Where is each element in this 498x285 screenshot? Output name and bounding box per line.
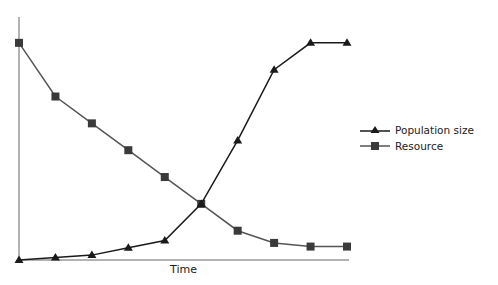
square-marker [161,173,169,181]
legend-item-resource: Resource [360,138,474,154]
square-marker [15,39,23,47]
triangle-marker-icon [360,125,390,135]
legend-label-resource: Resource [395,140,443,152]
legend: Population size Resource [360,122,474,154]
population-series [15,38,352,263]
square-marker-icon [360,141,390,151]
legend-label-population: Population size [395,124,474,136]
square-marker [270,239,278,247]
square-marker [51,93,59,101]
x-axis-label: Time [170,263,197,276]
square-marker [234,227,242,235]
triangle-marker [270,65,279,73]
square-marker [88,119,96,127]
square-marker [307,243,315,251]
square-marker [343,243,351,251]
resource-series [15,39,351,251]
triangle-marker [233,136,242,144]
square-marker [124,146,132,154]
legend-item-population: Population size [360,122,474,138]
